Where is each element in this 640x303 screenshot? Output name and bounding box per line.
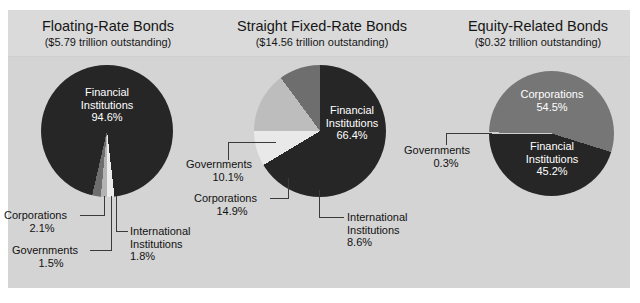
pie1-intl-value: 1.8%	[130, 250, 155, 262]
pie3-corporations-label: Corporations 54.5%	[508, 88, 596, 113]
pie2-intl-leader-h	[319, 217, 344, 218]
pie3-fin-line1: Financial	[530, 140, 574, 152]
pie2-intl-line1: International	[347, 211, 408, 223]
pie3-gov-value: 0.3%	[404, 157, 488, 170]
pie2-financial-institutions-label: Financial Institutions 66.4%	[312, 104, 392, 142]
pie1-governments-label: Governments 1.5%	[12, 244, 90, 269]
pie3-corp-value: 54.5%	[536, 101, 567, 113]
pie1-intl-leader-h	[116, 231, 128, 232]
pie1-gov-value: 1.5%	[12, 257, 90, 270]
pie2-corp-leader-h	[270, 198, 289, 199]
pie1-gov-leader-v	[111, 196, 112, 251]
pie1-intl-leader-v	[116, 196, 117, 232]
pie2-corporations-label: Corporations 14.9%	[194, 192, 270, 217]
pie2-subtitle: ($14.56 trillion outstanding)	[222, 36, 422, 49]
pie2-fin-value: 66.4%	[336, 129, 367, 141]
pie1-subtitle: ($5.79 trillion outstanding)	[18, 36, 198, 49]
pie3-financial-institutions-label: Financial Institutions 45.2%	[508, 140, 596, 178]
pie3-fin-line2: Institutions	[526, 153, 579, 165]
pie3-subtitle: ($0.32 trillion outstanding)	[452, 36, 624, 49]
pie1-corp-name: Corporations	[4, 209, 67, 221]
pie2-gov-leader-h	[228, 142, 276, 143]
pie1-intl-line2: Institutions	[130, 238, 183, 250]
pie1-gov-name: Governments	[12, 244, 78, 256]
chart-figure: Floating-Rate Bonds ($5.79 trillion outs…	[0, 0, 640, 303]
pie2-title: Straight Fixed-Rate Bonds	[222, 18, 422, 34]
pie1-fin-line1: Financial	[85, 86, 129, 98]
pie3-title: Equity-Related Bonds	[452, 18, 624, 34]
pie1-international-institutions-label: International Institutions 1.8%	[130, 225, 212, 263]
pie3-gov-leader-h	[446, 133, 492, 134]
pie1-gov-leader-h	[90, 250, 112, 251]
pie1-title: Floating-Rate Bonds	[18, 18, 198, 34]
pie1-corp-leader-v	[104, 196, 105, 216]
pie2-governments-label: Governments 10.1%	[186, 158, 270, 183]
pie1-corp-value: 2.1%	[4, 222, 80, 235]
pie1-corporations-label: Corporations 2.1%	[4, 209, 80, 234]
pie3-gov-name: Governments	[404, 144, 470, 156]
pie2-gov-value: 10.1%	[186, 171, 270, 184]
pie2-intl-value: 8.6%	[347, 236, 372, 248]
pie2-fin-line1: Financial	[330, 104, 374, 116]
pie2-intl-line2: Institutions	[347, 224, 400, 236]
pie2-international-institutions-label: International Institutions 8.6%	[347, 211, 429, 249]
pie2-corp-leader-v	[288, 178, 289, 199]
pie2-corp-name: Corporations	[194, 192, 257, 204]
pie1-intl-line1: International	[130, 225, 191, 237]
figure-divider-line	[8, 56, 630, 57]
pie2-fin-line2: Institutions	[326, 117, 379, 129]
pie2-gov-name: Governments	[186, 158, 252, 170]
pie1-fin-value: 94.6%	[91, 111, 122, 123]
pie2-corp-value: 14.9%	[194, 205, 270, 218]
pie1-corp-leader-h	[80, 215, 105, 216]
pie3-fin-value: 45.2%	[536, 165, 567, 177]
pie3-corp-name: Corporations	[521, 88, 584, 100]
pie1-fin-line2: Institutions	[81, 99, 134, 111]
pie2-intl-leader-v	[319, 190, 320, 218]
pie1-chart	[41, 65, 173, 197]
pie1-financial-institutions-label: Financial Institutions 94.6%	[62, 86, 152, 124]
pie3-governments-label: Governments 0.3%	[404, 144, 488, 169]
